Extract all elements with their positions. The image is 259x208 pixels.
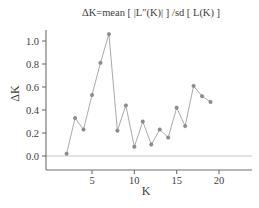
plot-area: 0.00.20.40.60.81.0 5101520 — [0, 0, 259, 208]
svg-text:1.0: 1.0 — [26, 36, 39, 47]
svg-text:20: 20 — [214, 175, 225, 186]
svg-text:15: 15 — [171, 175, 182, 186]
y-tick-labels: 0.00.20.40.60.81.0 — [26, 36, 40, 162]
data-point-markers — [65, 32, 212, 155]
svg-text:0.0: 0.0 — [26, 151, 39, 162]
svg-text:0.4: 0.4 — [26, 105, 40, 116]
svg-text:10: 10 — [129, 175, 140, 186]
y-axis — [42, 30, 46, 170]
x-axis — [46, 170, 252, 174]
data-line-series — [67, 34, 211, 154]
x-tick-labels: 5101520 — [89, 175, 224, 186]
svg-text:0.2: 0.2 — [26, 128, 39, 139]
svg-text:5: 5 — [89, 175, 94, 186]
svg-text:0.8: 0.8 — [26, 59, 39, 70]
chart-figure: ΔK=mean [ |L″(K)| ] /sd [ L(K) ] ΔK K 0.… — [0, 0, 259, 208]
svg-text:0.6: 0.6 — [26, 82, 39, 93]
